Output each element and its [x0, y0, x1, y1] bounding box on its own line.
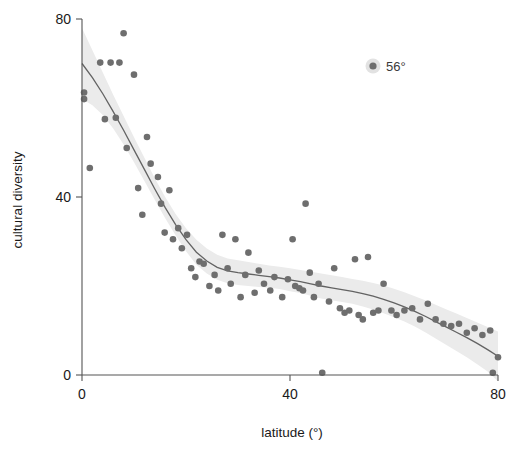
data-point — [471, 325, 478, 332]
y-axis-title: cultural diversity — [10, 151, 25, 248]
y-tick-label: 40 — [55, 189, 71, 205]
x-tick-label: 80 — [490, 386, 506, 402]
data-point — [116, 59, 123, 66]
data-point — [432, 316, 439, 323]
data-point — [365, 254, 372, 261]
data-point — [311, 294, 318, 301]
data-point — [315, 280, 322, 287]
scatter-plot-figure: 04080 04080 latitude (°) cultural divers… — [0, 0, 520, 453]
data-point — [144, 134, 151, 141]
data-point — [360, 316, 367, 323]
data-point — [131, 71, 138, 78]
data-point — [300, 287, 307, 294]
data-point — [166, 187, 173, 194]
data-point — [232, 236, 239, 243]
data-point — [224, 265, 231, 272]
data-point — [215, 287, 222, 294]
data-point — [206, 283, 213, 290]
data-point — [97, 59, 104, 66]
legend-annotation[interactable]: 56° — [366, 59, 406, 75]
data-point — [289, 236, 296, 243]
chart-canvas: 04080 04080 latitude (°) cultural divers… — [0, 0, 520, 453]
data-point — [375, 307, 382, 314]
axes-group: 04080 04080 — [55, 11, 506, 402]
data-point — [211, 272, 218, 279]
data-point — [271, 274, 278, 281]
data-point — [456, 321, 463, 328]
data-point — [401, 307, 408, 314]
data-point — [331, 265, 338, 272]
data-point — [158, 200, 165, 207]
y-axis-ticks: 04080 — [55, 11, 82, 383]
x-tick-label: 0 — [78, 386, 86, 402]
data-point — [251, 289, 258, 296]
data-point — [170, 236, 177, 243]
data-point — [161, 229, 168, 236]
confidence-band — [82, 28, 498, 381]
x-tick-label: 40 — [282, 386, 298, 402]
data-point — [279, 294, 286, 301]
data-point — [425, 301, 432, 308]
data-point — [302, 200, 309, 207]
data-point — [179, 245, 186, 252]
data-point — [175, 225, 182, 232]
data-point — [326, 298, 333, 305]
data-point — [261, 280, 268, 287]
data-point — [393, 312, 400, 319]
data-point — [388, 307, 395, 314]
data-point — [352, 256, 359, 263]
data-point — [255, 267, 262, 274]
data-point — [285, 276, 292, 283]
data-point — [242, 272, 249, 279]
annotation-label: 56° — [386, 59, 406, 74]
data-point — [237, 294, 244, 301]
data-point — [448, 323, 455, 330]
data-point — [346, 307, 353, 314]
data-point — [380, 280, 387, 287]
data-point — [107, 59, 114, 66]
data-point — [227, 280, 234, 287]
y-tick-label: 0 — [63, 367, 71, 383]
confidence-band-group — [82, 28, 498, 381]
data-point — [123, 145, 130, 152]
data-point — [464, 329, 471, 336]
data-point — [184, 232, 191, 239]
x-axis-ticks: 04080 — [78, 375, 506, 402]
y-tick-label: 80 — [55, 11, 71, 27]
data-point — [306, 269, 313, 276]
data-point — [267, 287, 274, 294]
data-point — [440, 321, 447, 328]
data-point — [409, 305, 416, 312]
data-point — [495, 354, 502, 361]
data-point — [219, 232, 226, 239]
data-point — [147, 160, 154, 167]
data-point — [155, 174, 162, 181]
data-point — [479, 332, 486, 339]
data-point — [188, 265, 195, 272]
data-point — [113, 114, 120, 121]
x-axis-title: latitude (°) — [261, 425, 323, 440]
data-point — [487, 327, 494, 334]
data-point — [102, 116, 109, 123]
data-point — [139, 212, 146, 219]
data-point — [120, 30, 127, 37]
annotation-marker-dot — [369, 62, 376, 69]
data-point — [192, 274, 199, 281]
data-point — [245, 249, 252, 256]
data-point — [417, 316, 424, 323]
data-point — [87, 165, 94, 172]
data-point — [135, 185, 142, 192]
data-point — [200, 260, 207, 267]
